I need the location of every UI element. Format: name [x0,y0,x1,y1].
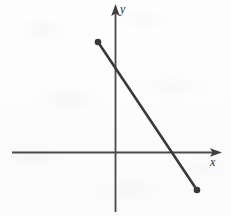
x-axis-label: x [210,156,215,168]
upper-endpoint-dot [95,39,102,46]
y-axis-label: y [120,3,125,15]
lower-endpoint-dot [194,187,201,194]
y-axis [111,4,120,212]
x-axis [12,148,222,157]
line-segment-series [95,39,201,194]
graph-figure: y x [0,0,231,216]
line-segment [98,42,197,190]
coordinate-plane-plot [0,0,231,216]
